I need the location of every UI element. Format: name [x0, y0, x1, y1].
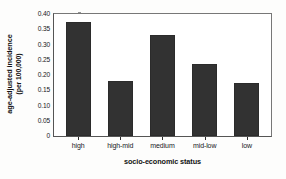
- x-tick-label: mid-low: [193, 142, 216, 149]
- y-tick-label: 0: [26, 132, 50, 139]
- plot-area: [53, 13, 272, 137]
- y-axis-title: age-adjusted incidence (per 100,000): [2, 14, 28, 134]
- y-tick-label: 0.10: [26, 101, 50, 108]
- bar-low: [234, 83, 259, 136]
- y-tick-label: 0.05: [26, 116, 50, 123]
- x-tick-mark: [205, 137, 206, 140]
- x-tick-label: low: [242, 142, 252, 149]
- x-tick-mid-low: mid-low: [192, 137, 217, 153]
- y-tick-label: 0.25: [26, 55, 50, 62]
- x-tick-high-mid: high-mid: [108, 137, 133, 153]
- bar-chart-figure: age-adjusted incidence (per 100,000) 00.…: [0, 0, 286, 179]
- y-axis-title-line1: age-adjusted incidence: [6, 34, 15, 114]
- x-tick-high: high: [66, 137, 91, 153]
- y-tick-label: 0.40: [26, 10, 50, 17]
- x-tick-mark: [247, 137, 248, 140]
- bar-mid-low: [192, 64, 217, 136]
- y-axis-title-line2: (per 100,000): [15, 34, 24, 114]
- bar-high: [66, 22, 91, 136]
- x-tick-mark: [162, 137, 163, 140]
- x-axis-title: socio-economic status: [53, 157, 272, 166]
- bar-medium: [150, 35, 175, 136]
- y-tick-label: 0.20: [26, 71, 50, 78]
- x-tick-low: low: [234, 137, 259, 153]
- x-tick-label: medium: [150, 142, 174, 149]
- y-axis-tick-labels: 00.050.100.150.200.250.300.350.40: [26, 12, 50, 138]
- y-tick-label: 0.35: [26, 25, 50, 32]
- bar-high-mid: [108, 81, 133, 136]
- bar-series: [54, 14, 271, 136]
- y-tick-label: 0.30: [26, 40, 50, 47]
- x-tick-medium: medium: [150, 137, 175, 153]
- y-tick-label: 0.15: [26, 86, 50, 93]
- x-tick-label: high: [72, 142, 85, 149]
- x-tick-mark: [78, 137, 79, 140]
- x-tick-mark: [120, 137, 121, 140]
- x-tick-label: high-mid: [107, 142, 133, 149]
- x-axis-tick-labels: highhigh-midmediummid-lowlow: [53, 137, 272, 153]
